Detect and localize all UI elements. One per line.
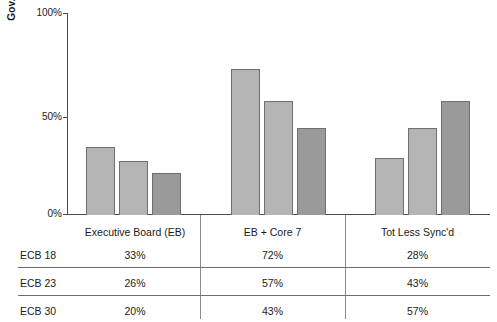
table-cell-ecb23-totlesssyncd: 43% <box>345 277 490 289</box>
y-tick-50-label: 50% <box>18 112 62 122</box>
table-row-label-ecb-30: ECB 30 <box>20 305 56 317</box>
bar-totlesssyncd-ecb18 <box>375 158 404 215</box>
bar-totlesssyncd-ecb23 <box>408 128 437 215</box>
table-rule-2 <box>18 295 490 296</box>
table-cell-ecb23-eb: 26% <box>70 277 200 289</box>
table-header-tot-less-syncd: Tot Less Sync'd <box>345 226 490 238</box>
y-tick-100-label: 100% <box>18 8 62 18</box>
table-cell-ecb30-totlesssyncd: 57% <box>345 305 490 317</box>
chart-figure: Gov. Council Vote Shares 100% 50% 0% Exe… <box>0 0 497 322</box>
table-header-eb-core-7: EB + Core 7 <box>200 226 345 238</box>
table-header-executive-board: Executive Board (EB) <box>70 226 200 238</box>
data-table: Executive Board (EB) EB + Core 7 Tot Les… <box>0 215 497 322</box>
table-cell-ecb23-ebcore7: 57% <box>200 277 345 289</box>
table-row-label-ecb-23: ECB 23 <box>20 277 56 289</box>
table-row-label-ecb-18: ECB 18 <box>20 249 56 261</box>
bar-ebcore7-ecb30 <box>297 128 326 215</box>
bar-eb-ecb23 <box>119 161 148 215</box>
table-rule-1 <box>18 267 490 268</box>
y-axis-line <box>67 13 68 215</box>
bar-eb-ecb18 <box>86 147 115 215</box>
bar-ebcore7-ecb23 <box>264 101 293 215</box>
y-axis-title: Gov. Council Vote Shares <box>4 0 20 44</box>
table-cell-ecb18-eb: 33% <box>70 249 200 261</box>
bar-ebcore7-ecb18 <box>231 69 260 215</box>
y-tick-50: 50% <box>14 112 62 122</box>
table-cell-ecb18-ebcore7: 72% <box>200 249 345 261</box>
table-cell-ecb18-totlesssyncd: 28% <box>345 249 490 261</box>
bar-eb-ecb30 <box>152 173 181 215</box>
y-tick-100: 100% <box>14 8 62 18</box>
table-cell-ecb30-ebcore7: 43% <box>200 305 345 317</box>
table-cell-ecb30-eb: 20% <box>70 305 200 317</box>
bar-totlesssyncd-ecb30 <box>441 101 470 215</box>
